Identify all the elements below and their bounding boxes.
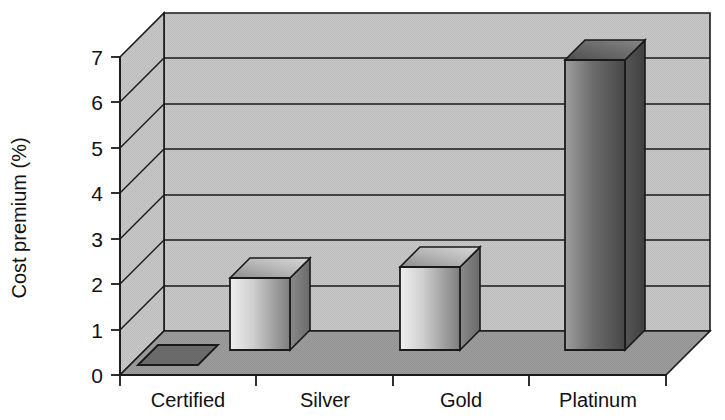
- x-tick-label-platinum: Platinum: [559, 389, 637, 411]
- bar-platinum: [565, 40, 645, 350]
- y-tick-label-7: 7: [91, 46, 103, 69]
- bar-silver: [230, 258, 310, 350]
- y-tick-label-5: 5: [91, 137, 103, 160]
- x-tick-label-silver: Silver: [300, 389, 350, 411]
- x-tick-label-certified: Certified: [151, 389, 225, 411]
- plot-area-left-wall: [120, 13, 164, 375]
- bar-chart-3d: 0 1 2 3 4 5 6 7 Cost premium (%): [0, 0, 725, 420]
- bar-gold: [400, 247, 480, 350]
- y-axis-title: Cost premium (%): [8, 137, 30, 298]
- y-tick-label-4: 4: [91, 182, 103, 205]
- chart-container: 0 1 2 3 4 5 6 7 Cost premium (%): [0, 0, 725, 420]
- y-tick-label-6: 6: [91, 91, 103, 114]
- y-tick-label-1: 1: [91, 319, 103, 342]
- x-tick-label-gold: Gold: [440, 389, 482, 411]
- y-tick-label-3: 3: [91, 228, 103, 251]
- y-tick-label-2: 2: [91, 273, 103, 296]
- y-tick-label-0: 0: [91, 364, 103, 387]
